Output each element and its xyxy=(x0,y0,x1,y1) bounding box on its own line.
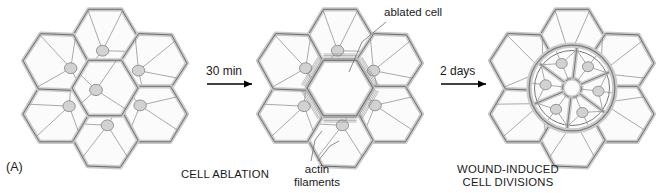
ablated-epidermis-cell-6-nucleus xyxy=(300,63,312,74)
divided-epidermis-daughter-nucleus-3 xyxy=(577,108,588,118)
intact-epidermis-center-cell-wall-band xyxy=(72,60,138,115)
ablated-epidermis-cell-1-nucleus xyxy=(331,45,343,56)
divided-epidermis-daughter-nucleus-6 xyxy=(556,59,567,69)
intact-epidermis-cell-2-nucleus xyxy=(132,65,144,76)
divided-epidermis-daughter-nucleus-5 xyxy=(540,80,551,90)
figure-root: (A) 30 min 2 days CELL ABLATION WOUND-IN… xyxy=(0,0,669,193)
step-time-2days: 2 days xyxy=(440,65,475,78)
intact-epidermis-center-cell-nucleus xyxy=(90,84,103,95)
arrow-30min-head xyxy=(244,81,252,88)
step-caption-wound-induced-cell-divisions: WOUND-INDUCEDCELL DIVISIONS xyxy=(413,163,603,188)
annotation-ablated-cell: ablated cell xyxy=(384,6,442,19)
step-time-30min: 30 min xyxy=(206,65,242,78)
step-caption-cell-ablation: CELL ABLATION xyxy=(181,168,269,181)
panel-divided-epidermis xyxy=(490,9,654,167)
intact-epidermis-cell-6-nucleus xyxy=(65,63,77,74)
divided-epidermis-daughter-nucleus-2 xyxy=(593,86,604,96)
divided-epidermis-daughter-nucleus-4 xyxy=(550,104,561,114)
panel-ablated-epidermis xyxy=(258,9,422,167)
intact-epidermis-cell-5-nucleus xyxy=(63,101,75,112)
panel-intact-epidermis xyxy=(23,9,187,167)
intact-epidermis-cell-4-nucleus xyxy=(101,120,113,131)
annotation-actin-filaments: actinfilaments xyxy=(294,163,340,189)
divided-epidermis-daughter-nucleus-1 xyxy=(582,62,593,72)
intact-epidermis-cell-3-nucleus xyxy=(134,100,146,111)
panel-letter: (A) xyxy=(6,160,23,174)
arrow-2days-head xyxy=(478,81,486,88)
ablated-epidermis-center-cell-wall-band xyxy=(307,60,373,115)
intact-epidermis-cell-1-nucleus xyxy=(96,45,108,56)
ablated-epidermis-cell-4-nucleus xyxy=(336,120,348,131)
